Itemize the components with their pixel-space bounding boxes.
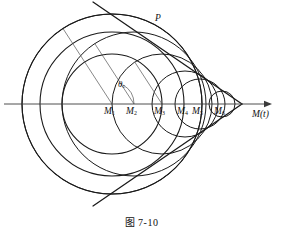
source-label-m5: M5 (192, 107, 203, 117)
source-label-m1: M1 (104, 107, 115, 117)
source-label-m3: M3 (154, 107, 165, 117)
horizontal-axis (4, 101, 272, 107)
theta-subscript: c (122, 83, 124, 89)
source-label-index: 5 (200, 110, 203, 116)
source-label-m2: M2 (126, 107, 137, 117)
theta-c-label: θc (118, 80, 125, 89)
source-label-base: M (154, 106, 162, 116)
figure-mach-cone: P θc M(t) M1M2M3M4M5M6 图 7-10 (0, 0, 283, 233)
radius-line-m1 (63, 29, 112, 104)
source-label-index: 6 (222, 110, 225, 116)
source-label-m6: M6 (214, 107, 225, 117)
source-label-base: M (126, 106, 134, 116)
axis-label-Mt: M(t) (252, 110, 269, 120)
source-label-m4: M4 (177, 107, 188, 117)
source-label-index: 3 (162, 110, 165, 116)
cone-upper-line (93, 2, 242, 104)
axis-arrowhead-icon (264, 101, 272, 107)
source-label-index: 4 (185, 110, 188, 116)
source-label-base: M (177, 106, 185, 116)
mach-cone-diagram (0, 0, 283, 233)
source-label-base: M (104, 106, 112, 116)
source-label-base: M (214, 106, 222, 116)
source-label-base: M (192, 106, 200, 116)
figure-caption: 图 7-10 (0, 214, 283, 229)
source-label-index: 2 (134, 110, 137, 116)
cone-lower-line (93, 104, 242, 206)
point-p-label: P (155, 14, 161, 24)
source-label-index: 1 (112, 110, 115, 116)
radius-line-m2 (95, 44, 134, 104)
